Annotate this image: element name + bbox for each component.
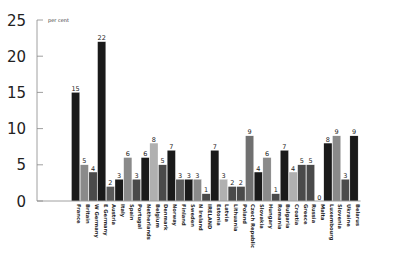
bar bbox=[254, 172, 262, 201]
bar bbox=[124, 158, 132, 201]
x-tick-label: Sweden bbox=[190, 204, 196, 227]
bar-group: 3 bbox=[341, 172, 349, 201]
x-tick-label: Norway bbox=[171, 204, 178, 227]
bar bbox=[280, 150, 288, 201]
bar-value-label: 5 bbox=[300, 157, 304, 165]
bar-value-label: 8 bbox=[152, 136, 156, 144]
bar-value-label: 3 bbox=[134, 172, 138, 180]
x-tick-label: Latvia bbox=[224, 204, 230, 222]
x-tick-label: Slovenia bbox=[337, 204, 343, 229]
y-tick-label: 20 bbox=[7, 48, 26, 66]
bar-group: 3 bbox=[115, 172, 123, 201]
bar-value-label: 4 bbox=[291, 165, 295, 173]
bar bbox=[202, 194, 210, 201]
bar-value-label: 15 bbox=[71, 85, 79, 93]
bar bbox=[333, 136, 341, 201]
bar-value-label: 22 bbox=[98, 34, 106, 42]
x-tick-label: Ukraine bbox=[346, 204, 352, 227]
bar-group: 5 bbox=[80, 157, 88, 201]
bar bbox=[89, 172, 97, 201]
bar-group: 2 bbox=[106, 179, 114, 201]
bar-value-label: 6 bbox=[143, 150, 147, 158]
bar bbox=[246, 136, 254, 201]
y-axis: 0510152025 bbox=[7, 12, 43, 211]
bar-group: 4 bbox=[254, 165, 262, 201]
bar-value-label: 4 bbox=[91, 165, 95, 173]
bar-value-label: 2 bbox=[230, 179, 234, 187]
bar bbox=[350, 136, 358, 201]
bar-value-label: 1 bbox=[204, 186, 208, 194]
x-tick-label: Portugal bbox=[136, 204, 143, 229]
bar-value-label: 3 bbox=[343, 172, 347, 180]
bar-value-label: 0 bbox=[317, 194, 321, 202]
x-tick-label: Austria bbox=[111, 204, 117, 226]
bar bbox=[115, 179, 123, 201]
bar-group: 3 bbox=[193, 172, 201, 201]
x-tick-label: Spain bbox=[128, 204, 135, 221]
x-tick-label: Poland bbox=[242, 204, 248, 224]
bar-value-label: 9 bbox=[335, 128, 339, 136]
bar-value-label: 5 bbox=[161, 157, 165, 165]
x-tick-label: Romania bbox=[277, 204, 283, 230]
bar bbox=[132, 179, 140, 201]
bar bbox=[141, 158, 149, 201]
bar-group: 22 bbox=[98, 34, 106, 201]
bar-group: 7 bbox=[280, 143, 288, 201]
x-tick-label: Lithuania bbox=[233, 204, 239, 232]
bar-group: 15 bbox=[71, 85, 79, 201]
bar-group: 3 bbox=[132, 172, 140, 201]
bar-group: 6 bbox=[124, 150, 132, 201]
y-tick-label: 25 bbox=[7, 12, 26, 30]
bar bbox=[106, 187, 114, 201]
bar-group: 3 bbox=[176, 172, 184, 201]
bar-value-label: 8 bbox=[326, 136, 330, 144]
bar bbox=[263, 158, 271, 201]
x-tick-label: Finland bbox=[181, 204, 187, 226]
x-tick-label: Croatia bbox=[294, 204, 300, 226]
x-tick-label: Luxembourg bbox=[328, 204, 335, 241]
bar-value-label: 2 bbox=[108, 179, 112, 187]
bar-value-label: 3 bbox=[221, 172, 225, 180]
bar bbox=[150, 143, 158, 201]
bar bbox=[237, 187, 245, 201]
bar bbox=[289, 172, 297, 201]
x-tick-label: Greece bbox=[303, 204, 309, 225]
bar bbox=[176, 179, 184, 201]
y-tick-label: 10 bbox=[7, 120, 26, 138]
x-tick-label: E Germany bbox=[102, 204, 109, 236]
bar bbox=[193, 179, 201, 201]
bar-value-label: 4 bbox=[256, 165, 260, 173]
bar-group: 5 bbox=[159, 157, 167, 201]
y-tick-label: 5 bbox=[16, 156, 26, 174]
x-tick-label: Italy bbox=[119, 204, 126, 218]
bar-group: 2 bbox=[228, 179, 236, 201]
bar-group: 5 bbox=[306, 157, 314, 201]
bar bbox=[98, 42, 106, 201]
x-tick-label: Britain bbox=[85, 204, 91, 224]
x-tick-label: N Ireland bbox=[198, 204, 204, 231]
bar-group: 9 bbox=[246, 128, 254, 201]
bar-group: 2 bbox=[237, 179, 245, 201]
bar-value-label: 9 bbox=[352, 128, 356, 136]
x-tick-label: Estonia bbox=[216, 204, 222, 226]
bar-group: 9 bbox=[333, 128, 341, 201]
x-tick-label: Belgium bbox=[154, 204, 161, 228]
bar-value-label: 7 bbox=[213, 143, 217, 151]
bar bbox=[80, 165, 88, 201]
bar-value-label: 3 bbox=[187, 172, 191, 180]
bar bbox=[219, 179, 227, 201]
x-tick-label: Belarus bbox=[355, 204, 361, 226]
bar-group: 8 bbox=[150, 136, 158, 201]
bar-group: 9 bbox=[350, 128, 358, 201]
bar-value-label: 1 bbox=[274, 186, 278, 194]
bar-value-label: 7 bbox=[282, 143, 286, 151]
bar-value-label: 6 bbox=[126, 150, 130, 158]
bar-value-label: 6 bbox=[265, 150, 269, 158]
x-tick-label: Netherlands bbox=[146, 204, 152, 240]
bar bbox=[72, 92, 80, 201]
bar-group: 1 bbox=[272, 186, 280, 201]
bar bbox=[185, 179, 193, 201]
bar-group: 3 bbox=[185, 172, 193, 201]
bar bbox=[167, 150, 175, 201]
bar bbox=[324, 143, 332, 201]
